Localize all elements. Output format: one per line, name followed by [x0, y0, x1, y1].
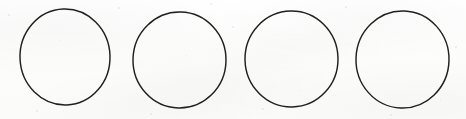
circle-4 [354, 9, 450, 109]
circle-1 [18, 7, 111, 106]
shape-group [18, 7, 450, 109]
circle-3 [244, 10, 339, 108]
circle-2 [132, 11, 227, 109]
drawing-canvas [0, 0, 466, 119]
circles-figure [0, 0, 466, 119]
